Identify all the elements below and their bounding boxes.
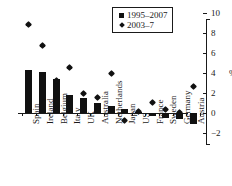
data-point — [66, 63, 73, 70]
x-category-label: Italy — [73, 108, 82, 125]
x-category-label: Spain — [32, 103, 41, 124]
x-category-label: US — [142, 112, 151, 124]
legend-label: 1995–2007 — [127, 11, 168, 20]
x-category-label: Ireland — [46, 99, 55, 124]
y-tick-label: 6 — [211, 49, 216, 58]
x-category-label: Netherlands — [115, 81, 124, 124]
data-point — [190, 82, 197, 89]
y-tick — [203, 13, 207, 14]
y-tick — [203, 33, 207, 34]
legend-label: 2003–7 — [127, 21, 154, 30]
y-tick-label: 4 — [211, 69, 216, 78]
legend-entry: 1995–2007 — [116, 10, 168, 20]
data-point — [39, 41, 46, 48]
x-category-label: UK — [87, 111, 96, 124]
y-tick — [203, 93, 207, 94]
chart-legend: 1995–2007 2003–7 — [112, 7, 173, 33]
y-tick-label: 2 — [211, 89, 216, 98]
x-category-label: Japan — [128, 104, 137, 125]
diamond-marker-icon — [116, 23, 127, 27]
x-category-label: Germany — [183, 91, 192, 125]
y-tick — [203, 133, 207, 134]
y-tick-label: 0 — [211, 109, 216, 118]
x-category-label: Sweden — [169, 96, 178, 125]
data-point — [80, 89, 87, 96]
y-tick-label: 10 — [211, 9, 220, 18]
x-category-label: France — [156, 100, 165, 125]
data-point — [107, 69, 114, 76]
y-tick-label: −2 — [211, 129, 221, 138]
y-tick — [203, 53, 207, 54]
x-category-label: Australia — [101, 91, 110, 124]
y-axis-spine — [206, 19, 207, 145]
y-axis-bottom-cap — [206, 144, 210, 145]
axis-unit-label: % — [229, 69, 232, 78]
square-marker-icon — [116, 13, 127, 18]
legend-entry: 2003–7 — [116, 20, 168, 30]
y-axis-top-cap — [206, 19, 210, 20]
chart-figure: 1086420−2% SpainIrelandBelgiumItalyUKAus… — [0, 0, 232, 186]
y-tick — [203, 73, 207, 74]
x-category-label: Austria — [197, 98, 206, 125]
x-category-label: Belgium — [60, 93, 69, 124]
data-point — [25, 20, 32, 27]
x-tick — [22, 113, 23, 116]
y-tick-label: 8 — [211, 29, 216, 38]
